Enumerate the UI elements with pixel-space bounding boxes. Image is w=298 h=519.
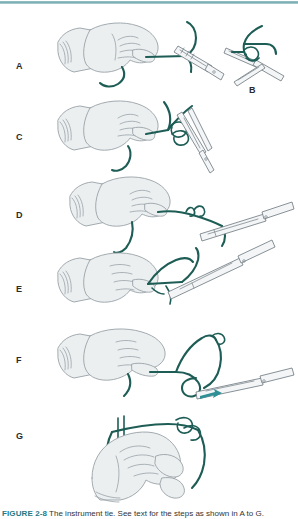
- panel-g-art: [92, 416, 205, 502]
- panel-label-f: F: [16, 356, 22, 365]
- figure-caption-label: FIGURE 2-8: [2, 509, 47, 518]
- panel-b-art: [224, 26, 284, 86]
- panel-c-art: [58, 101, 214, 173]
- panel-label-a: A: [16, 62, 23, 71]
- panel-e-art: [58, 240, 275, 304]
- panel-label-c: C: [16, 133, 23, 142]
- panel-d-art: [70, 177, 294, 253]
- figure-caption-text: The instrument tie. See text for the ste…: [47, 509, 264, 518]
- panel-label-g: G: [16, 432, 23, 441]
- panel-f-art: [58, 329, 294, 399]
- figure-artwork: .sk{fill:#eceff0;stroke:#98a2a7;stroke-w…: [0, 0, 298, 519]
- panel-label-d: D: [16, 211, 23, 220]
- panel-a-art: [58, 22, 224, 87]
- panel-label-e: E: [16, 285, 22, 294]
- panel-label-b: B: [249, 86, 256, 95]
- figure-caption: FIGURE 2-8 The instrument tie. See text …: [2, 509, 298, 519]
- figure-container: .sk{fill:#eceff0;stroke:#98a2a7;stroke-w…: [0, 0, 298, 519]
- figure-caption-clip: FIGURE 2-8 The instrument tie. See text …: [0, 509, 298, 519]
